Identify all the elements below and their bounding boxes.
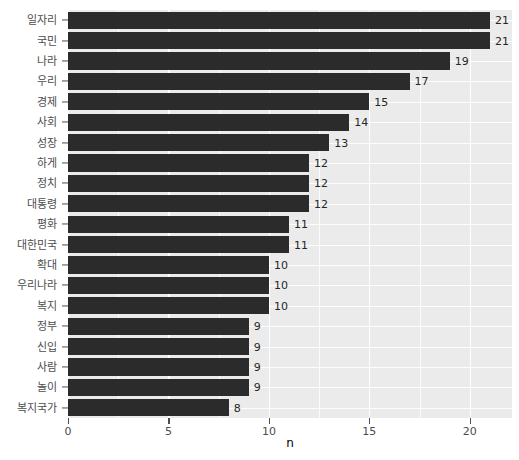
- y-tick-label: 정치: [37, 178, 57, 189]
- bar: [68, 277, 269, 294]
- bar-value-label: 14: [354, 117, 368, 128]
- x-tick-mark: [470, 418, 471, 424]
- bar-row: 14: [68, 114, 512, 131]
- bar-value-label: 9: [254, 321, 261, 332]
- bar-row: 12: [68, 195, 512, 212]
- bar-value-label: 10: [274, 300, 288, 311]
- bar-value-label: 19: [455, 55, 469, 66]
- bar-row: 8: [68, 399, 512, 416]
- bar-value-label: 10: [274, 259, 288, 270]
- gridline-minor-vertical: [219, 10, 220, 418]
- gridline-major-vertical: [269, 10, 270, 418]
- y-tick-label: 국민: [37, 35, 57, 46]
- y-tick-label: 우리나라: [17, 280, 57, 291]
- bar: [68, 216, 289, 233]
- bar-value-label: 13: [334, 137, 348, 148]
- bar: [68, 93, 369, 110]
- bar: [68, 114, 349, 131]
- bar: [68, 399, 229, 416]
- y-tick-mark: [62, 407, 68, 408]
- x-tick-label: 20: [463, 426, 477, 437]
- bar: [68, 297, 269, 314]
- gridline-major-vertical: [168, 10, 169, 418]
- y-tick-label: 우리: [37, 76, 57, 87]
- bar-row: 10: [68, 297, 512, 314]
- bar-value-label: 12: [314, 198, 328, 209]
- bar-row: 9: [68, 318, 512, 335]
- bar-value-label: 17: [415, 76, 429, 87]
- bar-row: 10: [68, 256, 512, 273]
- x-tick-label: 0: [65, 426, 72, 437]
- y-tick-mark: [62, 224, 68, 225]
- bar: [68, 195, 309, 212]
- y-tick-mark: [62, 142, 68, 143]
- y-tick-mark: [62, 81, 68, 82]
- bar: [68, 32, 490, 49]
- bar-row: 19: [68, 52, 512, 69]
- bar-row: 11: [68, 216, 512, 233]
- bar-row: 21: [68, 32, 512, 49]
- bar-chart: 21211917151413121212111110101099998 일자리국…: [0, 0, 519, 460]
- bar-row: 9: [68, 338, 512, 355]
- y-tick-label: 대한민국: [17, 239, 57, 250]
- bar: [68, 154, 309, 171]
- y-tick-mark: [62, 183, 68, 184]
- bar-row: 17: [68, 73, 512, 90]
- bar-value-label: 9: [254, 341, 261, 352]
- bar-value-label: 8: [234, 402, 241, 413]
- y-tick-label: 확대: [37, 260, 57, 271]
- y-tick-label: 사회: [37, 117, 57, 128]
- bar: [68, 358, 249, 375]
- bar: [68, 338, 249, 355]
- y-tick-label: 나라: [37, 56, 57, 67]
- y-tick-mark: [62, 285, 68, 286]
- y-tick-mark: [62, 203, 68, 204]
- bar-value-label: 11: [294, 219, 308, 230]
- bar: [68, 379, 249, 396]
- y-tick-mark: [62, 60, 68, 61]
- gridline-major-vertical: [68, 10, 69, 418]
- y-tick-label: 경제: [37, 96, 57, 107]
- y-tick-label: 대통령: [27, 198, 57, 209]
- x-tick-label: 5: [165, 426, 172, 437]
- bar-row: 12: [68, 175, 512, 192]
- y-tick-label: 복지: [37, 300, 57, 311]
- x-axis-title: n: [68, 437, 512, 449]
- bar-value-label: 10: [274, 280, 288, 291]
- bar: [68, 73, 410, 90]
- y-tick-mark: [62, 122, 68, 123]
- y-tick-mark: [62, 20, 68, 21]
- bar-value-label: 11: [294, 239, 308, 250]
- bar: [68, 318, 249, 335]
- y-tick-label: 신입: [37, 341, 57, 352]
- x-tick-label: 10: [262, 426, 276, 437]
- bar-row: 15: [68, 93, 512, 110]
- bar: [68, 175, 309, 192]
- x-tick-mark: [369, 418, 370, 424]
- y-tick-mark: [62, 387, 68, 388]
- bar-value-label: 21: [495, 35, 509, 46]
- y-tick-label: 성장: [37, 137, 57, 148]
- x-tick-mark: [168, 418, 169, 424]
- y-tick-label: 복지국가: [17, 402, 57, 413]
- y-tick-label: 정부: [37, 321, 57, 332]
- bar: [68, 12, 490, 29]
- bar-value-label: 15: [374, 96, 388, 107]
- bar: [68, 236, 289, 253]
- gridline-major-vertical: [369, 10, 370, 418]
- bar-value-label: 9: [254, 382, 261, 393]
- y-tick-mark: [62, 40, 68, 41]
- y-tick-label: 사람: [37, 362, 57, 373]
- y-tick-mark: [62, 305, 68, 306]
- y-tick-label: 일자리: [27, 15, 57, 26]
- bar: [68, 256, 269, 273]
- y-tick-mark: [62, 264, 68, 265]
- bar: [68, 52, 450, 69]
- bar-row: 13: [68, 134, 512, 151]
- gridline-minor-vertical: [420, 10, 421, 418]
- y-tick-label: 평화: [37, 219, 57, 230]
- bar-value-label: 12: [314, 178, 328, 189]
- x-tick-mark: [68, 418, 69, 424]
- bar-value-label: 12: [314, 157, 328, 168]
- y-axis: 일자리국민나라우리경제사회성장하게정치대통령평화대한민국확대우리나라복지정부신입…: [0, 10, 68, 418]
